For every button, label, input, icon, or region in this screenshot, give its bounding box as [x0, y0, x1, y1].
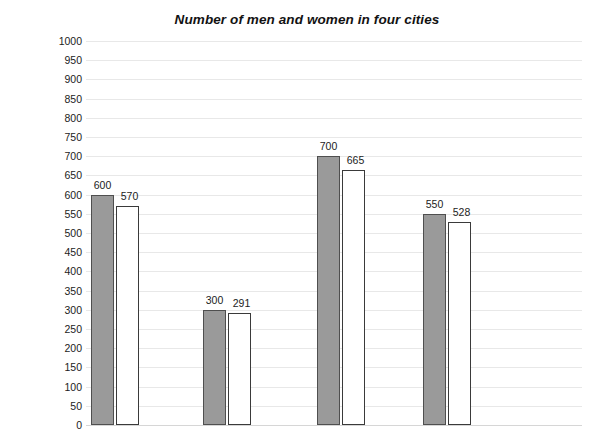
y-axis-tick-label: 850 — [42, 94, 82, 104]
y-axis-tick-label: 450 — [42, 247, 82, 257]
y-axis-tick-label: 750 — [42, 132, 82, 142]
bar-value-label-men-1: 600 — [84, 180, 121, 191]
y-axis-tick-label: 100 — [42, 382, 82, 392]
y-axis-tick-label: 400 — [42, 266, 82, 276]
gridline — [86, 137, 582, 138]
y-axis-tick-label: 200 — [42, 343, 82, 353]
y-axis-tick-label: 800 — [42, 113, 82, 123]
bar-men-1[interactable] — [91, 195, 114, 425]
y-axis-tick-label: 600 — [42, 190, 82, 200]
bar-value-label-women-1: 570 — [111, 191, 148, 202]
bar-value-label-men-3: 700 — [310, 141, 347, 152]
bar-women-1[interactable] — [116, 206, 139, 425]
y-axis-tick-label: 250 — [42, 324, 82, 334]
y-axis-tick-label: 900 — [42, 74, 82, 84]
y-axis-tick-label: 550 — [42, 209, 82, 219]
bar-women-4[interactable] — [448, 222, 471, 425]
y-axis-tick-label: 1000 — [42, 36, 82, 46]
y-axis-tick-label: 650 — [42, 170, 82, 180]
gridline — [86, 425, 582, 426]
y-axis-tick-label: 300 — [42, 305, 82, 315]
gridline — [86, 118, 582, 119]
plot-area: 600570300291700665550528 — [86, 41, 582, 425]
bar-women-2[interactable] — [228, 313, 251, 425]
bar-value-label-women-2: 291 — [223, 298, 260, 309]
chart-title: Number of men and women in four cities — [0, 12, 614, 27]
y-axis-tick-label: 350 — [42, 286, 82, 296]
bar-women-3[interactable] — [342, 170, 365, 425]
y-axis-tick-label: 150 — [42, 362, 82, 372]
gridline — [86, 99, 582, 100]
bar-chart: Number of men and women in four cities N… — [0, 0, 614, 431]
y-axis-tick-label: 950 — [42, 55, 82, 65]
y-axis-tick-label: 50 — [42, 401, 82, 411]
y-axis-tick-label: 0 — [42, 420, 82, 430]
gridline — [86, 79, 582, 80]
y-axis-tick-labels: 1000950900850800750700650600550500450400… — [38, 41, 82, 425]
bar-value-label-women-4: 528 — [443, 207, 480, 218]
gridline — [86, 60, 582, 61]
y-axis-tick-label: 500 — [42, 228, 82, 238]
bar-men-2[interactable] — [203, 310, 226, 425]
y-axis-tick-label: 700 — [42, 151, 82, 161]
gridline — [86, 41, 582, 42]
bar-men-4[interactable] — [423, 214, 446, 425]
bar-men-3[interactable] — [317, 156, 340, 425]
bar-value-label-women-3: 665 — [337, 155, 374, 166]
